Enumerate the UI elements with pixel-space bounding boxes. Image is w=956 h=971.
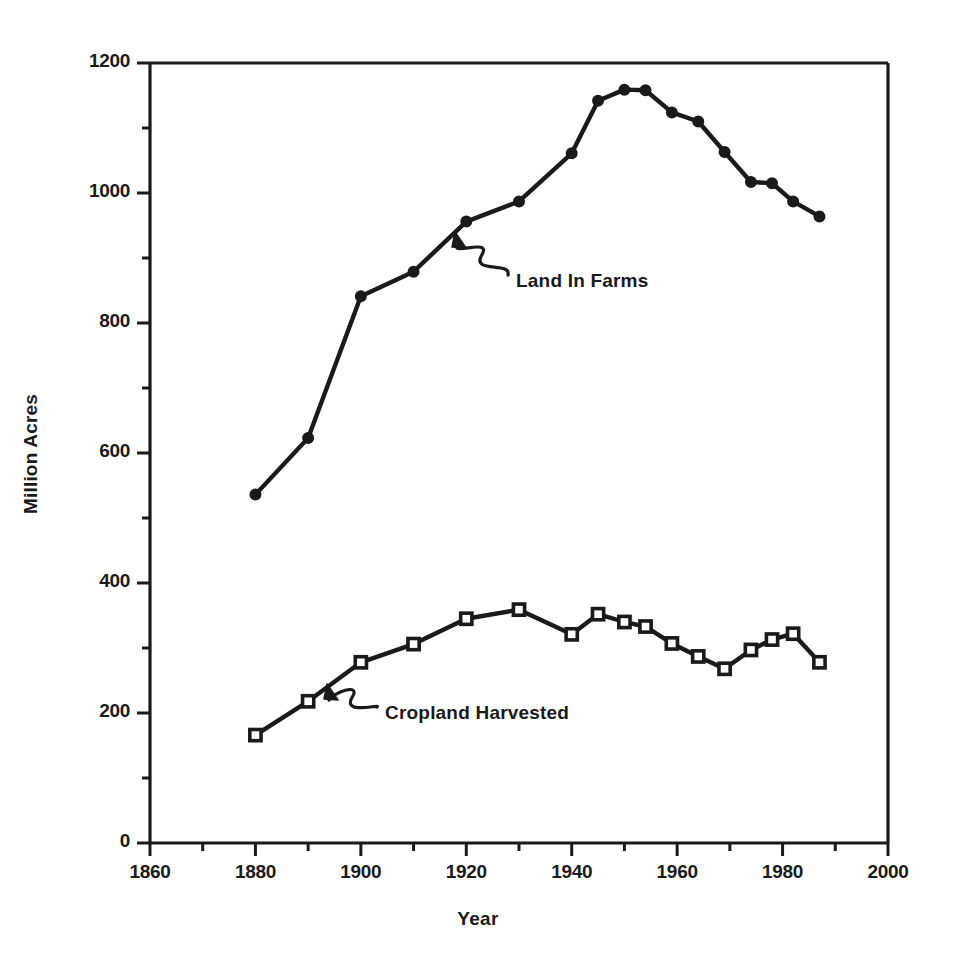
data-point-marker [746,177,756,187]
data-point-marker [788,628,799,639]
data-point-marker [250,489,260,499]
series-land-in-farms [250,84,824,499]
data-point-marker [719,147,729,157]
data-point-marker [592,609,603,620]
y-tick-label: 1200 [0,50,130,72]
data-point-marker [566,629,577,640]
data-point-marker [745,644,756,655]
y-tick-label: 400 [0,570,130,592]
data-point-marker [514,196,524,206]
data-point-marker [355,657,366,668]
data-point-marker [461,613,472,624]
x-tick-label: 1860 [100,861,200,883]
data-point-marker [814,211,824,221]
annotation-leader-line [457,247,508,275]
data-point-marker [593,96,603,106]
data-point-marker [640,85,650,95]
data-point-marker [719,663,730,674]
data-point-marker [640,621,651,632]
data-point-marker [666,638,677,649]
y-tick-label: 0 [0,830,130,852]
chart-figure: Million Acres Year 120010008006004002000… [0,0,956,971]
y-tick-label: 200 [0,700,130,722]
data-series [250,84,825,740]
data-point-marker [814,657,825,668]
annotation-label-cropland-harvested: Cropland Harvested [385,702,569,724]
data-point-marker [250,730,261,741]
data-point-marker [303,696,314,707]
data-point-marker [767,178,777,188]
data-point-marker [303,433,313,443]
data-point-marker [619,616,630,627]
data-point-marker [461,216,471,226]
y-tick-label: 1000 [0,180,130,202]
data-point-marker [356,291,366,301]
data-point-marker [408,639,419,650]
annotations [324,232,508,708]
x-tick-label: 1960 [627,861,727,883]
annotation-arrow-head [452,232,466,248]
x-tick-label: 2000 [838,861,938,883]
data-point-marker [667,107,677,117]
x-tick-label: 1900 [311,861,411,883]
annotation-label-land-in-farms: Land In Farms [516,270,648,292]
x-tick-label: 1980 [733,861,833,883]
data-point-marker [693,651,704,662]
y-tick-label: 600 [0,440,130,462]
plot-area [0,0,956,971]
data-point-marker [788,196,798,206]
data-point-marker [513,604,524,615]
data-point-marker [567,148,577,158]
x-tick-label: 1920 [416,861,516,883]
data-point-marker [693,116,703,126]
x-axis-title: Year [0,908,956,930]
data-point-marker [766,634,777,645]
data-point-marker [619,84,629,94]
y-tick-label: 800 [0,310,130,332]
x-tick-label: 1940 [522,861,622,883]
x-tick-label: 1880 [205,861,305,883]
data-point-marker [408,266,418,276]
